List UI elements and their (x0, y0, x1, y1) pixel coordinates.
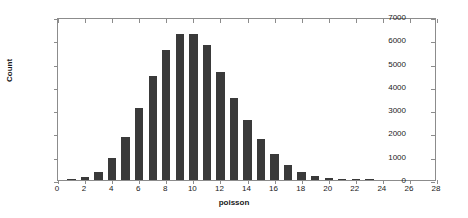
y-tick-mark-right (431, 66, 435, 67)
y-tick-mark-right (431, 159, 435, 160)
y-tick-mark (54, 89, 58, 90)
histogram-bar (149, 76, 157, 180)
x-tick-mark-top (329, 19, 330, 23)
histogram-bar (297, 172, 305, 180)
x-tick-mark-top (220, 19, 221, 23)
x-tick-mark-top (410, 19, 411, 23)
x-tick-label: 28 (424, 185, 448, 193)
y-tick-mark (54, 135, 58, 136)
y-tick-label: 7000 (388, 14, 406, 22)
bars-layer (58, 19, 435, 180)
histogram-bar (230, 98, 238, 180)
x-tick-label: 22 (343, 185, 367, 193)
x-tick-mark-top (58, 19, 59, 23)
y-tick-mark (54, 159, 58, 160)
x-tick-label: 14 (235, 185, 259, 193)
x-tick-mark-top (166, 19, 167, 23)
y-tick-label: 4000 (388, 84, 406, 92)
histogram-bar (243, 120, 251, 180)
y-tick-mark-right (431, 89, 435, 90)
histogram-bar (108, 158, 116, 180)
x-tick-label: 12 (207, 185, 231, 193)
y-tick-label: 1000 (388, 154, 406, 162)
x-tick-mark-top (248, 19, 249, 23)
y-tick-mark-right (431, 112, 435, 113)
y-tick-label: 3000 (388, 107, 406, 115)
y-tick-mark (54, 112, 58, 113)
x-tick-mark-top (139, 19, 140, 23)
histogram-bar (121, 137, 129, 180)
x-tick-mark-top (383, 19, 384, 23)
x-tick-mark-top (193, 19, 194, 23)
x-tick-label: 6 (126, 185, 150, 193)
x-tick-mark-top (356, 19, 357, 23)
x-tick-label: 10 (180, 185, 204, 193)
x-tick-mark-top (112, 19, 113, 23)
histogram-bar (162, 50, 170, 180)
histogram-bar (94, 172, 102, 180)
histogram-bar (203, 45, 211, 180)
poisson-histogram-figure: 01000200030004000500060007000 0246810121… (0, 0, 468, 218)
plot-area (57, 18, 436, 181)
x-axis-title: poisson (0, 198, 468, 207)
y-tick-label: 2000 (388, 130, 406, 138)
x-tick-label: 20 (316, 185, 340, 193)
histogram-bar (135, 108, 143, 180)
y-tick-label: 5000 (388, 61, 406, 69)
x-tick-label: 8 (153, 185, 177, 193)
histogram-bar (338, 179, 346, 180)
histogram-bar (365, 179, 373, 180)
y-axis-title: Count (5, 59, 14, 82)
y-tick-mark-right (431, 135, 435, 136)
x-tick-mark-top (302, 19, 303, 23)
x-tick-label: 2 (72, 185, 96, 193)
y-tick-mark-right (431, 182, 435, 183)
histogram-bar (189, 34, 197, 180)
x-tick-label: 26 (397, 185, 421, 193)
x-tick-label: 0 (45, 185, 69, 193)
y-tick-mark-right (431, 19, 435, 20)
x-tick-label: 24 (370, 185, 394, 193)
histogram-bar (311, 176, 319, 180)
histogram-bar (67, 179, 75, 180)
x-tick-label: 18 (289, 185, 313, 193)
histogram-bar (176, 34, 184, 180)
x-tick-label: 16 (262, 185, 286, 193)
y-tick-label: 6000 (388, 37, 406, 45)
x-tick-label: 4 (99, 185, 123, 193)
x-tick-mark-top (85, 19, 86, 23)
histogram-bar (216, 72, 224, 180)
histogram-bar (257, 139, 265, 180)
x-tick-mark-top (437, 19, 438, 23)
x-tick-mark-top (275, 19, 276, 23)
y-tick-mark-right (431, 42, 435, 43)
histogram-bar (284, 165, 292, 180)
y-tick-mark (54, 66, 58, 67)
y-tick-mark (54, 42, 58, 43)
histogram-bar (270, 154, 278, 180)
